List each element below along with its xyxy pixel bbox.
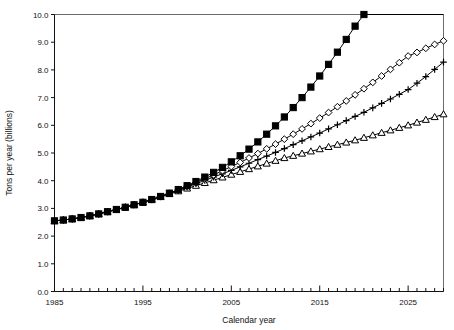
data-point-plus: [325, 126, 332, 133]
square-marker: [352, 23, 358, 29]
square-marker: [317, 73, 323, 79]
plus-marker: [308, 134, 315, 141]
plot-frame: [55, 15, 444, 292]
square-marker: [334, 49, 340, 55]
data-point-open-diamond: [290, 131, 297, 138]
data-point-open-diamond: [272, 141, 279, 148]
plus-marker: [405, 86, 412, 93]
data-point-open-diamond: [431, 41, 438, 48]
y-tick-label: 9.0: [37, 38, 49, 47]
data-point-filled-square: [334, 49, 340, 55]
data-point-plus: [369, 105, 376, 112]
plus-marker: [369, 105, 376, 112]
data-point-plus: [272, 149, 279, 156]
plus-marker: [272, 149, 279, 156]
data-point-filled-square: [157, 193, 163, 199]
data-point-open-diamond: [414, 49, 421, 56]
data-point-plus: [281, 145, 288, 152]
axes-layer: [51, 15, 444, 292]
data-point-filled-square: [246, 146, 252, 152]
data-point-open-diamond: [369, 79, 376, 86]
diamond-marker: [440, 37, 447, 44]
square-marker: [299, 95, 305, 101]
square-marker: [228, 159, 234, 165]
series-markers-scenario-low: [51, 111, 447, 224]
square-marker: [69, 216, 75, 222]
plus-marker: [352, 113, 359, 120]
data-point-open-diamond: [334, 103, 341, 110]
data-point-filled-square: [272, 123, 278, 129]
diamond-marker: [246, 155, 253, 162]
data-point-filled-square: [96, 211, 102, 217]
plus-marker: [281, 145, 288, 152]
data-point-open-diamond: [254, 150, 261, 157]
data-point-filled-square: [361, 11, 367, 17]
data-point-plus: [316, 130, 323, 137]
square-marker: [237, 153, 243, 159]
data-point-filled-square: [149, 196, 155, 202]
square-marker: [175, 186, 181, 192]
y-tick-label: 5.0: [37, 149, 49, 158]
data-point-plus: [361, 109, 368, 116]
triangle-marker: [440, 111, 447, 117]
data-point-open-diamond: [263, 145, 270, 152]
square-marker: [264, 131, 270, 137]
square-marker: [96, 211, 102, 217]
square-marker: [131, 202, 137, 208]
plus-marker: [299, 138, 306, 145]
data-point-open-diamond: [343, 98, 350, 105]
y-tick-label: 1.0: [37, 260, 49, 269]
x-tick-label: 2005: [222, 298, 240, 307]
series-layer: [51, 11, 447, 224]
y-tick-label: 4.0: [37, 177, 49, 186]
square-marker: [202, 174, 208, 180]
data-point-plus: [308, 134, 315, 141]
y-tick-label: 8.0: [37, 66, 49, 75]
data-point-filled-square: [325, 61, 331, 67]
data-point-open-triangle: [440, 111, 447, 117]
data-point-filled-square: [281, 114, 287, 120]
diamond-marker: [369, 79, 376, 86]
square-marker: [361, 11, 367, 17]
square-marker: [211, 169, 217, 175]
data-point-plus: [263, 153, 270, 160]
data-point-open-diamond: [352, 91, 359, 98]
square-marker: [308, 84, 314, 90]
data-point-filled-square: [184, 183, 190, 189]
data-point-filled-square: [113, 206, 119, 212]
diamond-marker: [334, 103, 341, 110]
diamond-marker: [272, 141, 279, 148]
data-point-open-diamond: [246, 155, 253, 162]
plus-marker: [325, 126, 332, 133]
square-marker: [193, 178, 199, 184]
x-tick-label: 1995: [134, 298, 152, 307]
data-point-filled-square: [290, 104, 296, 110]
plus-marker: [263, 153, 270, 160]
square-marker: [325, 61, 331, 67]
square-marker: [122, 204, 128, 210]
data-point-filled-square: [122, 204, 128, 210]
data-point-filled-square: [69, 216, 75, 222]
data-point-open-diamond: [361, 85, 368, 92]
data-point-filled-square: [255, 139, 261, 145]
data-point-plus: [352, 113, 359, 120]
y-tick-label: 0.0: [37, 288, 49, 297]
diamond-marker: [290, 131, 297, 138]
diamond-marker: [254, 150, 261, 157]
diamond-marker: [307, 120, 314, 127]
square-marker: [246, 146, 252, 152]
data-point-filled-square: [352, 23, 358, 29]
data-point-filled-square: [104, 209, 110, 215]
data-point-filled-square: [317, 73, 323, 79]
x-tick-label: 2015: [311, 298, 329, 307]
data-point-plus: [299, 138, 306, 145]
series-line-scenario-mid-high: [55, 41, 444, 221]
square-marker: [149, 196, 155, 202]
series-markers-scenario-mid-low: [51, 59, 447, 224]
chart-container: 0.01.02.03.04.05.06.07.08.09.010.0198519…: [0, 0, 454, 330]
diamond-marker: [431, 41, 438, 48]
data-point-filled-square: [131, 202, 137, 208]
data-point-filled-square: [228, 159, 234, 165]
data-point-plus: [396, 91, 403, 98]
data-point-open-diamond: [281, 136, 288, 143]
